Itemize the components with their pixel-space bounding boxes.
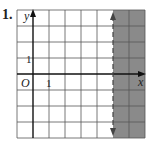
- coordinate-graph: y x O 1 1: [0, 0, 151, 145]
- x-tick-label: 1: [46, 77, 52, 89]
- x-axis-label: x: [137, 75, 144, 89]
- origin-label: O: [21, 76, 30, 90]
- y-axis-label: y: [23, 9, 30, 23]
- y-tick-label: 1: [26, 53, 32, 65]
